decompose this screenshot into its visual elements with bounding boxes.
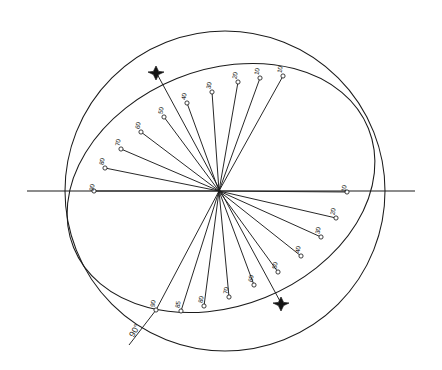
star-axis-line	[156, 72, 281, 303]
tick-label: 80	[98, 157, 106, 165]
ray	[212, 92, 219, 191]
ray	[219, 191, 321, 237]
tick-label: 85	[174, 300, 182, 308]
graduation-dot	[276, 270, 280, 274]
ray	[121, 149, 219, 191]
graduation-dot	[202, 304, 206, 308]
graduation-dot	[185, 101, 189, 105]
tick-label: 50	[157, 106, 165, 114]
graduation-dot	[252, 283, 256, 287]
tick-label: 10	[340, 184, 348, 192]
tick-label: 30	[314, 226, 322, 234]
graduation-dot	[119, 147, 123, 151]
figure-canvas: 90 80 70 60 50 40 30 20 10 10 10 20 30 4…	[0, 0, 442, 370]
diagram-svg: 90 80 70 60 50 40 30 20 10 10 10 20 30 4…	[0, 0, 442, 370]
graduation-dot	[154, 308, 158, 312]
tick-label: 20	[231, 71, 239, 79]
graduation-dot	[210, 90, 214, 94]
graduation-dot	[319, 235, 323, 239]
graduation-dot	[227, 295, 231, 299]
graduation-dot	[179, 309, 183, 313]
ray	[164, 117, 219, 191]
ray	[141, 132, 219, 191]
tick-label: 80	[197, 295, 205, 303]
graduation-dot	[258, 76, 262, 80]
star-icon	[273, 297, 289, 311]
tick-label: 40	[180, 92, 188, 100]
tick-label: 30	[205, 81, 213, 89]
tick-label: 90	[149, 299, 157, 307]
tick-label: 90	[88, 183, 96, 191]
tick-label: 10	[253, 67, 261, 75]
ray	[219, 191, 229, 297]
graduation-dot	[299, 254, 303, 258]
graduation-dot	[162, 115, 166, 119]
ray	[156, 191, 219, 310]
radial-ray-group	[94, 76, 347, 311]
ninety-degree-annotation: 90°	[127, 322, 142, 338]
graduation-dot	[334, 216, 338, 220]
tick-label: 60	[134, 121, 142, 129]
ray	[219, 78, 260, 191]
ray	[105, 168, 219, 191]
tick-label: 60	[247, 274, 255, 282]
graduation-dot	[139, 130, 143, 134]
tick-label: 50	[271, 261, 279, 269]
graduation-dot	[236, 80, 240, 84]
graduation-dot	[281, 74, 285, 78]
ray	[219, 191, 278, 272]
ray	[187, 103, 219, 191]
tick-label: 40	[294, 245, 302, 253]
graduation-dot	[103, 166, 107, 170]
tick-label: 20	[329, 207, 337, 215]
ray	[204, 191, 219, 306]
star-icon	[148, 66, 164, 80]
tick-label: 70	[114, 138, 122, 146]
